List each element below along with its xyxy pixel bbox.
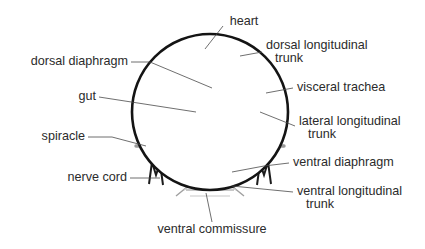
label-lateral-longitudinal-trunk-line1: lateral longitudinal [299,114,401,128]
label-heart: heart [230,14,259,28]
label-spiracle: spiracle [42,129,85,143]
body-wall-outline [132,34,288,190]
diagram-figure: heart dorsal diaphragm gut spiracle nerv… [0,0,425,249]
label-dorsal-diaphragm: dorsal diaphragm [31,54,128,68]
label-dorsal-longitudinal-trunk-line1: dorsal longitudinal [266,38,368,52]
label-ventral-commissure: ventral commissure [157,222,266,236]
label-gut: gut [78,89,96,103]
leader-ventral-longitudinal-trunk [232,186,293,192]
label-ventral-longitudinal-trunk-line1: ventral longitudinal [297,184,402,198]
cross-section-svg: heart dorsal diaphragm gut spiracle nerv… [0,0,425,249]
label-dorsal-longitudinal-trunk-line2: trunk [275,51,304,65]
leader-ventral-commissure [206,193,212,222]
label-ventral-longitudinal-trunk-line2: trunk [306,197,335,211]
label-lateral-longitudinal-trunk-line2: trunk [308,127,337,141]
label-nerve-cord: nerve cord [67,170,127,184]
label-visceral-trachea: visceral trachea [297,80,385,94]
label-ventral-diaphragm: ventral diaphragm [293,155,394,169]
